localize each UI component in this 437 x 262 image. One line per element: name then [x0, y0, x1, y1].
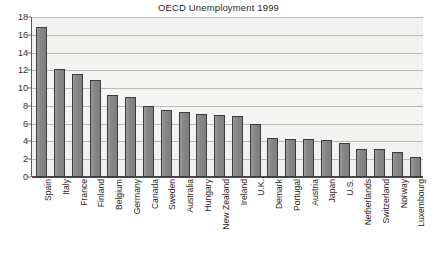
bar [321, 140, 332, 177]
bar [125, 97, 136, 177]
bar [72, 74, 83, 177]
chart-title: OECD Unemployment 1999 [0, 2, 437, 13]
x-tick-label: U.K. [257, 179, 266, 196]
x-tick-label: Luxembourg [417, 179, 426, 227]
oecd-unemployment-bar-chart: OECD Unemployment 1999 024681012141618 S… [0, 0, 437, 262]
y-tick-label: 0 [0, 173, 28, 182]
bar [143, 106, 154, 177]
y-axis: 024681012141618 [0, 17, 31, 182]
x-tick-label: Spain [44, 179, 53, 201]
bar [36, 27, 47, 177]
y-tick-label: 12 [0, 66, 28, 75]
bar [285, 139, 296, 177]
bar [392, 152, 403, 177]
x-tick-label: Switzerland [382, 179, 391, 223]
y-tick-label: 4 [0, 137, 28, 146]
bar [356, 149, 367, 177]
bar [267, 138, 278, 177]
bar [303, 139, 314, 177]
y-tick-label: 16 [0, 30, 28, 39]
plot-area [31, 17, 423, 177]
y-tick-label: 18 [0, 13, 28, 22]
bar [107, 95, 118, 177]
x-tick-label: Belgium [115, 179, 124, 210]
x-tick-label: Italy [62, 179, 71, 195]
x-tick-label: Norway [400, 179, 409, 208]
gridline [32, 35, 423, 36]
y-tick-label: 10 [0, 84, 28, 93]
x-tick-label: France [80, 179, 89, 206]
clipped-footer-text: ................... [6, 257, 43, 262]
bar [179, 112, 190, 177]
bar [54, 69, 65, 177]
gridline [32, 53, 423, 54]
x-tick-label: Netherlands [364, 179, 373, 225]
x-tick-label: Australia [186, 179, 195, 212]
bar [161, 110, 172, 177]
bar [196, 114, 207, 177]
y-tick-label: 6 [0, 119, 28, 128]
x-tick-label: Canada [151, 179, 160, 209]
bar [250, 124, 261, 177]
bar [410, 157, 421, 177]
y-tick-label: 14 [0, 48, 28, 57]
x-tick-label: Germany [133, 179, 142, 214]
x-tick-label: U.S. [346, 179, 355, 196]
bar [214, 115, 225, 177]
y-tick-label: 8 [0, 101, 28, 110]
bar [374, 149, 385, 177]
gridline [32, 70, 423, 71]
x-axis-labels: SpainItalyFranceFinlandBelgiumGermanyCan… [31, 179, 422, 259]
x-tick-label: Hungary [204, 179, 213, 211]
gridline [32, 17, 423, 18]
x-tick-label: Japan [328, 179, 337, 202]
x-tick-label: Demark [275, 179, 284, 209]
y-tick-label: 2 [0, 155, 28, 164]
bar [339, 143, 350, 177]
bar [90, 80, 101, 177]
bar [232, 116, 243, 177]
x-tick-label: Ireland [240, 179, 249, 205]
x-tick-label: Finland [97, 179, 106, 207]
x-tick-label: Austria [311, 179, 320, 206]
x-tick-label: New Zealand [222, 179, 231, 230]
x-tick-label: Sweden [168, 179, 177, 210]
x-tick-label: Portugal [293, 179, 302, 211]
